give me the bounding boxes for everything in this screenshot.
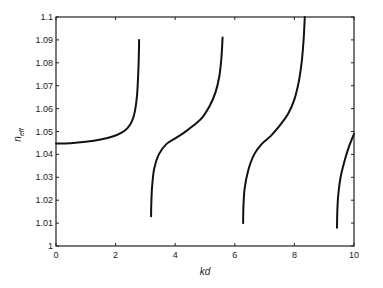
x-tick-label: 0 bbox=[53, 250, 58, 260]
svg-text:neff: neff bbox=[12, 127, 25, 141]
axis-ticks: 024681011.011.021.031.041.051.061.071.08… bbox=[35, 12, 359, 260]
curve-branch-2 bbox=[151, 38, 223, 217]
y-axis-label-sub: eff bbox=[18, 127, 25, 136]
y-tick-label: 1.08 bbox=[35, 58, 53, 68]
x-tick-label: 4 bbox=[173, 250, 178, 260]
data-curves bbox=[56, 17, 354, 228]
y-tick-label: 1.02 bbox=[35, 195, 53, 205]
curve-branch-3 bbox=[243, 17, 305, 223]
x-tick-label: 6 bbox=[232, 250, 237, 260]
plot-frame bbox=[56, 17, 354, 246]
y-tick-label: 1.09 bbox=[35, 35, 53, 45]
y-tick-label: 1 bbox=[48, 241, 53, 251]
y-tick-label: 1.05 bbox=[35, 127, 53, 137]
x-tick-label: 2 bbox=[113, 250, 118, 260]
y-axis-label: neff bbox=[12, 127, 25, 141]
y-tick-label: 1.07 bbox=[35, 81, 53, 91]
y-tick-label: 1.1 bbox=[40, 12, 53, 22]
x-tick-label: 8 bbox=[292, 250, 297, 260]
curve-branch-4 bbox=[337, 134, 354, 228]
y-tick-label: 1.03 bbox=[35, 172, 53, 182]
y-tick-label: 1.06 bbox=[35, 104, 53, 114]
x-axis-label: kd bbox=[200, 266, 211, 277]
chart: 024681011.011.021.031.041.051.061.071.08… bbox=[0, 0, 383, 288]
curve-branch-1 bbox=[56, 40, 139, 143]
y-tick-label: 1.04 bbox=[35, 149, 53, 159]
y-tick-label: 1.01 bbox=[35, 218, 53, 228]
x-tick-label: 10 bbox=[349, 250, 359, 260]
